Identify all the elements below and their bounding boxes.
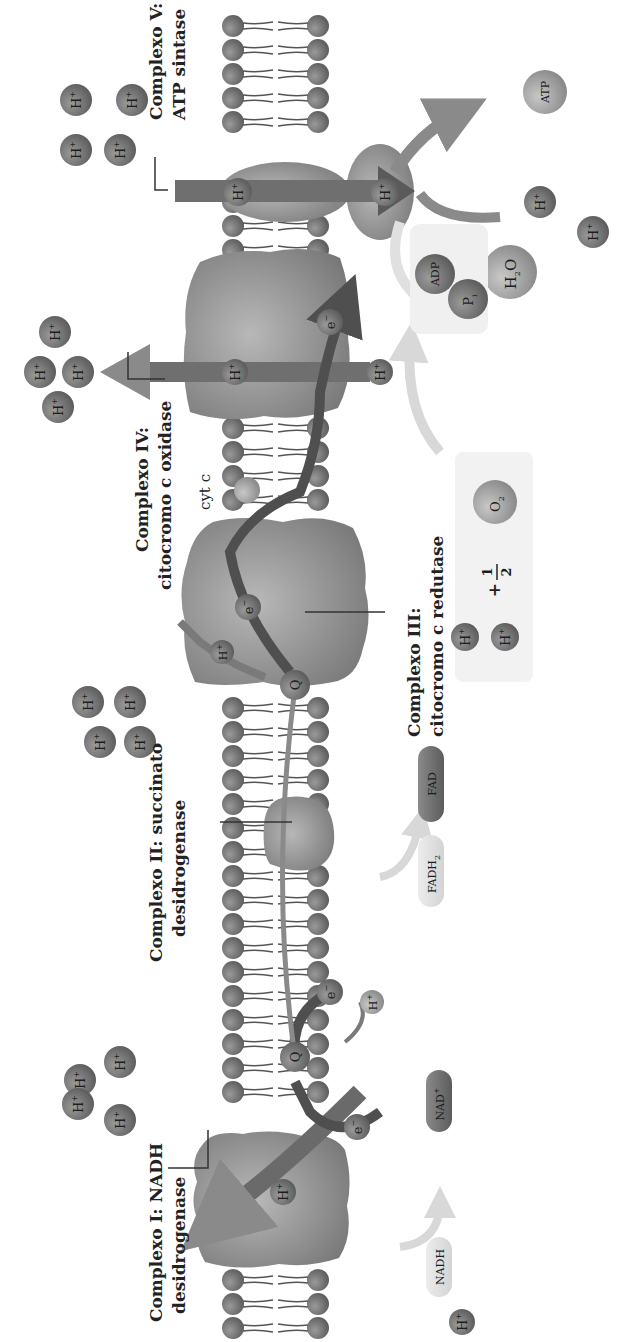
complex-5-atp-arrow — [395, 112, 460, 172]
h2o-ball — [483, 245, 537, 299]
adp-pi-box: ADP Pi — [410, 224, 488, 334]
fadh2-subscript: 2 — [433, 855, 442, 860]
fad-label: FAD — [426, 772, 439, 796]
oxygen-reaction-box: H+ H+ + 1 2 O2 — [451, 452, 533, 682]
complex-2-label-line1: Complexo II: succinato — [146, 743, 166, 962]
h2o-subscript: 2 — [513, 271, 522, 276]
electron-path — [180, 302, 380, 1127]
complex-1-label-line1: Complexo I: NADH — [146, 1143, 166, 1322]
ubiquinone-label: Q — [288, 1052, 303, 1063]
h2o-o: O — [502, 259, 520, 271]
nad-charge: + — [432, 1087, 441, 1094]
complex-5-proton-channel — [175, 180, 385, 202]
etc-diagram: NADH NAD+ FADH2 FAD H+ H+ + 1 2 O2 H2O A… — [0, 0, 641, 1342]
complex-5-adp-inflow — [420, 194, 500, 218]
complex-4-label-line2: citocromo c oxidase — [155, 400, 175, 590]
proton-cluster-complex-4: H+ H+ H+ H+ — [24, 316, 94, 423]
o2-to-water-arrow — [409, 342, 440, 452]
complex-5-leader — [155, 157, 168, 190]
water-molecule: H2O — [483, 245, 537, 299]
nadh-label: NADH — [434, 1249, 447, 1285]
proton-cluster-complex-5: H+ H+ H+ H+ — [60, 84, 148, 166]
complex-2-proton-arc — [345, 1002, 363, 1042]
pi-subscript: i — [470, 294, 479, 297]
complex-2-succinate-dehydrogenase — [264, 796, 335, 870]
proton: H+ — [270, 1179, 296, 1205]
complex-1-shape — [193, 1131, 349, 1267]
proton: H+ — [371, 178, 399, 206]
half-denominator: 2 — [499, 567, 514, 576]
proton: H+ — [524, 186, 556, 218]
complex-3-label-line2: citocromo c redutase — [427, 535, 447, 737]
ubiquinone-label: Q — [288, 680, 303, 691]
complex-5-label-line2: ATP sintase — [169, 9, 189, 121]
complex-4-label-line1: Complexo IV: — [132, 427, 152, 552]
o2-label: O — [488, 501, 503, 512]
proton: H+ — [449, 1309, 475, 1335]
nad-label: NAD — [434, 1094, 447, 1121]
cytochrome-c-ball — [234, 477, 260, 503]
pi-label: P — [461, 297, 476, 306]
half-numerator: 1 — [480, 567, 495, 576]
o2-subscript: 2 — [497, 496, 506, 501]
cytc-label: cyt c — [196, 474, 214, 510]
proton: H+ — [577, 216, 609, 248]
complex-1-label-line2: desidrogenase — [169, 1176, 189, 1314]
proton: H+ — [367, 359, 393, 385]
complex-1-nadh-dehydrogenase — [193, 1092, 360, 1268]
proton: H+ — [224, 178, 252, 206]
complex-4-proton-arrowhead — [100, 344, 150, 400]
complex-5-label-line1: Complexo V: — [146, 3, 166, 120]
q-shuttle-arrow — [283, 687, 296, 1057]
plus-sign: + — [484, 583, 504, 597]
atp-label: ATP — [539, 80, 552, 104]
complex-2-label-line2: desidrogenase — [169, 799, 189, 937]
electron-carriers: Q Q cyt c e− e− e− e− — [196, 309, 370, 1140]
fadh2-to-fad-arrow — [380, 822, 420, 877]
complex-2-shape — [264, 796, 335, 870]
atp-molecule: ATP — [523, 70, 567, 114]
adp-label: ADP — [429, 261, 442, 287]
diagram-canvas: NADH NAD+ FADH2 FAD H+ H+ + 1 2 O2 H2O A… — [0, 0, 641, 1342]
proton: H+ — [360, 990, 384, 1014]
complex-3-label-line1: Complexo III: — [404, 607, 424, 737]
fadh2-label: FADH — [426, 860, 439, 893]
h2o-h: H — [502, 276, 520, 289]
proton-cluster-complex-3: H+ H+ H+ H+ — [72, 686, 156, 758]
proton: H+ — [210, 640, 234, 664]
proton: H+ — [222, 359, 248, 385]
proton-cluster-complex-1: H+ H+ H+ H+ — [62, 1046, 136, 1136]
